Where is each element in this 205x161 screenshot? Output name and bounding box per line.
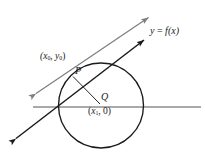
point-p-label: P bbox=[75, 66, 81, 76]
tangent-line-fx bbox=[16, 40, 144, 139]
point-p-coordinate-label: (x0, y0) bbox=[40, 52, 65, 62]
function-label: y = f(x) bbox=[150, 26, 179, 36]
point-q-label: Q bbox=[101, 92, 108, 102]
point-q-coordinate-label: (x1, 0) bbox=[88, 107, 111, 117]
geometry-figure: (x0, y0) P Q (x1, 0) y = f(x) bbox=[0, 0, 205, 161]
radius-segment-pq bbox=[73, 77, 100, 105]
